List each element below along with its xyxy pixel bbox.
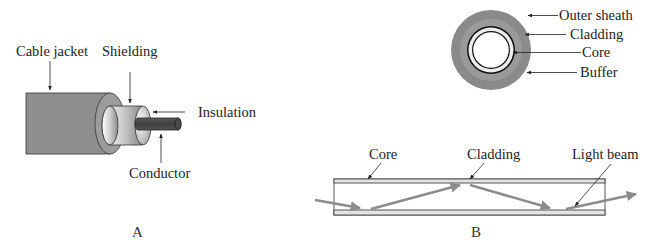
label-long-cladding: Cladding: [467, 146, 520, 162]
label-shielding: Shielding: [102, 43, 158, 59]
fiber-longitudinal: [315, 179, 636, 215]
label-cross-cladding: Cladding: [570, 26, 623, 42]
arrow-long-cladding: [470, 163, 484, 179]
fiber-cross-section: [451, 10, 531, 90]
label-buffer: Buffer: [580, 64, 618, 80]
shielding-inner-hole: [102, 106, 118, 145]
fiber-top-cladding: [334, 179, 605, 183]
conductor-shape: [135, 118, 181, 130]
caption-a: A: [132, 224, 143, 240]
coax-cable-illustration: [26, 93, 181, 154]
caption-b: B: [471, 224, 481, 240]
arrow-long-core: [368, 163, 381, 179]
label-cable-jacket: Cable jacket: [16, 43, 88, 59]
label-long-core: Core: [369, 146, 397, 162]
label-outer-sheath: Outer sheath: [559, 7, 633, 23]
label-conductor: Conductor: [129, 165, 190, 181]
fiber-bottom-cladding: [334, 210, 605, 215]
diagram-canvas: Cable jacket Shielding Insulation Conduc…: [0, 0, 659, 252]
core-disc: [473, 32, 509, 68]
conductor-end: [175, 118, 181, 130]
label-light-beam: Light beam: [572, 146, 639, 162]
label-cross-core: Core: [582, 44, 610, 60]
label-insulation: Insulation: [198, 104, 257, 120]
